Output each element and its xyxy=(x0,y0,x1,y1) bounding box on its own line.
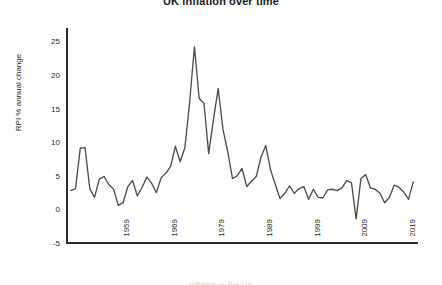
y-tick-label: 5 xyxy=(34,172,60,181)
plot-area xyxy=(66,28,418,243)
y-tick-label: 25 xyxy=(34,37,60,46)
y-tick-label: 10 xyxy=(34,138,60,147)
x-tick-label: 1989 xyxy=(265,219,274,249)
chart-figure: UK inflation over time RPI % annual chan… xyxy=(0,0,442,285)
y-tick-label: 20 xyxy=(34,71,60,80)
chart-caption: Inflation in the UK xyxy=(0,280,442,285)
y-axis-title: RPI % annual change xyxy=(14,33,23,153)
x-tick-label: 1959 xyxy=(122,219,131,249)
x-tick-label: 1969 xyxy=(170,219,179,249)
x-tick-label: 1999 xyxy=(313,219,322,249)
y-tick-label: 15 xyxy=(34,105,60,114)
line-series-rpi-annual-change xyxy=(71,47,413,219)
chart-title: UK inflation over time xyxy=(0,0,442,7)
x-tick-label: 1979 xyxy=(217,219,226,249)
y-tick-label: 0 xyxy=(34,205,60,214)
x-tick-label: 2009 xyxy=(360,219,369,249)
y-tick-label: -5 xyxy=(34,239,60,248)
data-series-svg xyxy=(66,28,418,243)
x-tick-label: 2019 xyxy=(408,219,417,249)
